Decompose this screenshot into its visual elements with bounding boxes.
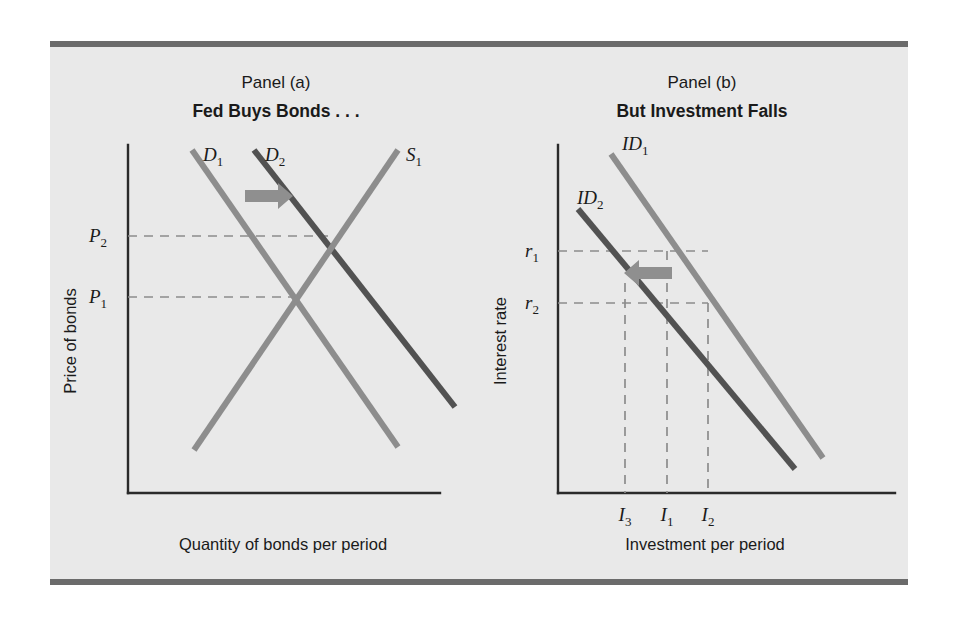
panel-a-label-s1: S1 [406,144,422,169]
panel-b-xtick-i3: I3 [618,504,632,529]
charts-container: Panel (a) Fed Buys Bonds . . . [50,41,908,585]
panel-b-label: Panel (b) [668,73,737,92]
panel-b-ytick-r1: r1 [525,240,539,265]
panel-b-headline: But Investment Falls [616,101,787,121]
panel-a-label: Panel (a) [242,73,311,92]
panel-b-curve-id2 [578,209,795,469]
panel-b-shift-arrow-icon [624,260,672,286]
figure-panel: Panel (a) Fed Buys Bonds . . . [50,41,908,585]
panel-a-ytick-p1: P1 [88,286,107,311]
panel-b-xtick-i2: I2 [701,504,715,529]
panel-b-ytick-r2: r2 [525,292,539,317]
panel-b-label-id1: ID1 [621,133,649,158]
panel-b-x-axis-label: Investment per period [625,535,785,553]
panel-a-headline: Fed Buys Bonds . . . [192,101,359,121]
figure-root: Panel (a) Fed Buys Bonds . . . [0,0,957,628]
panel-b-curve-id1 [611,154,823,458]
panel-a-group: Panel (a) Fed Buys Bonds . . . [61,73,455,553]
panel-b-group: Panel (b) But Investment Falls [491,73,895,553]
diagram-svg: Panel (a) Fed Buys Bonds . . . [50,41,908,585]
panel-a-x-axis-label: Quantity of bonds per period [179,535,387,553]
panel-b-y-axis-label: Interest rate [491,297,509,385]
panel-b-xtick-i1: I1 [660,504,674,529]
panel-a-y-axis-label: Price of bonds [61,288,79,393]
panel-a-ytick-p2: P2 [88,225,107,250]
